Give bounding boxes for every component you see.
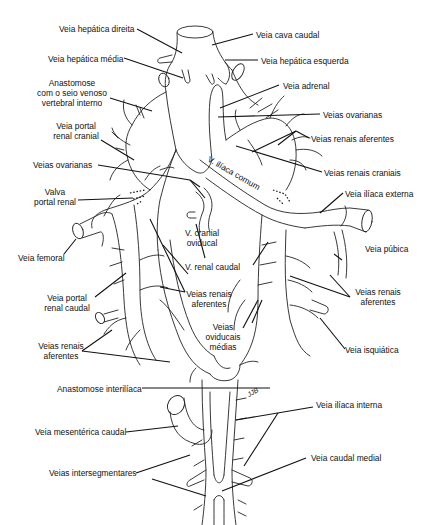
label-afferent-renal-veins-right: Veias renais aferentes (352, 287, 404, 307)
renal-portal-valve-right (273, 190, 290, 204)
label-renal-portal-valve: Valva portal renal (30, 187, 80, 207)
vein-diagram: Veia hepática direita Veia cava caudal V… (0, 0, 430, 525)
pubic-vein (334, 230, 347, 278)
label-ovarian-veins-left: Veias ovarianas (33, 160, 92, 170)
label-caudal-renal-vein: V. renal caudal (185, 262, 240, 272)
caudal-mesenteric-vein (164, 392, 212, 444)
right-caudal-kidney (228, 215, 328, 365)
label-afferent-renal-veins-low: Veias renais aferentes (35, 341, 87, 361)
renal-portal-valve-left (130, 190, 145, 204)
label-middle-hepatic-vein: Veia hepática média (48, 54, 123, 64)
label-caudal-vena-cava: Veia cava caudal (256, 30, 319, 40)
label-anastomosis-vertebral-sinus: Anastomose com o seio venoso vertebral i… (34, 78, 110, 108)
internal-iliac-caudal-trunk (187, 380, 252, 525)
label-cranial-renal-portal-vein: Veia portal renal cranial (48, 121, 104, 141)
label-adrenal-vein: Veia adrenal (283, 81, 330, 91)
label-cranial-oviducal-vein: V. cranial oviducal (180, 228, 224, 248)
label-afferent-renal-veins-mid: Veias renais aferentes (183, 289, 235, 309)
common-iliac-vein (150, 150, 320, 228)
label-intersegmental-veins: Veias intersegmentares (49, 468, 137, 478)
label-interiliac-anastomosis: Anastomose interilíaca (57, 384, 142, 394)
label-caudal-renal-portal-vein: Veia portal renal caudal (42, 293, 92, 313)
label-femoral-vein: Veia femoral (18, 253, 65, 263)
external-iliac-vein (305, 206, 374, 233)
label-cranial-renal-veins: Veias renais craniais (324, 168, 401, 178)
label-pubic-vein: Veia púbica (365, 244, 408, 254)
label-middle-oviducal-veins: Veias oviducais médias (203, 322, 243, 352)
label-right-hepatic-vein: Veia hepática direita (59, 24, 134, 34)
label-caudal-mesenteric-vein: Veia mesentérica caudal (35, 427, 126, 437)
label-medial-caudal-vein: Veia caudal medial (311, 453, 381, 463)
label-external-iliac-vein: Veia ilíaca externa (345, 189, 413, 199)
cranial-oviducal-vein (187, 188, 212, 232)
label-ischiatic-vein: Veia isquiática (345, 345, 399, 355)
label-internal-iliac-vein: Veia ilíaca interna (316, 400, 382, 410)
interiliac-anastomosis (190, 356, 258, 382)
label-left-hepatic-vein: Veia hepática esquerda (261, 56, 349, 66)
label-ovarian-veins-right: Veias ovarianas (323, 110, 382, 120)
left-hepatic-vein (218, 62, 247, 84)
label-afferent-renal-veins-top: Veias renais aferentes (311, 134, 394, 144)
